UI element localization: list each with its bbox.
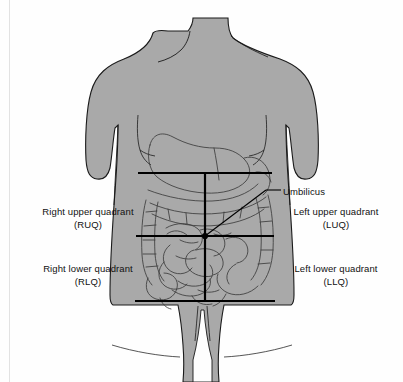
label-umbilicus: Umbilicus (283, 185, 325, 198)
label-ruq-name: Right upper quadrant (21, 205, 155, 218)
label-luq-abbrev: (LUQ) (272, 218, 400, 231)
abdominal-quadrants-figure (0, 0, 403, 382)
label-llq-name: Left lower quadrant (272, 262, 400, 275)
diagram-page: Umbilicus Right upper quadrant (RUQ) Rig… (0, 0, 403, 382)
label-left-upper-quadrant: Left upper quadrant (LUQ) (272, 205, 400, 231)
label-ruq-abbrev: (RUQ) (21, 218, 155, 231)
label-right-lower-quadrant: Right lower quadrant (RLQ) (21, 262, 155, 288)
label-llq-abbrev: (LLQ) (272, 275, 400, 288)
label-rlq-abbrev: (RLQ) (21, 275, 155, 288)
label-rlq-name: Right lower quadrant (21, 262, 155, 275)
body-silhouette (86, 18, 319, 382)
label-left-lower-quadrant: Left lower quadrant (LLQ) (272, 262, 400, 288)
thigh-crease-left (112, 345, 180, 357)
label-right-upper-quadrant: Right upper quadrant (RUQ) (21, 205, 155, 231)
label-luq-name: Left upper quadrant (272, 205, 400, 218)
thigh-crease-right (224, 345, 292, 357)
